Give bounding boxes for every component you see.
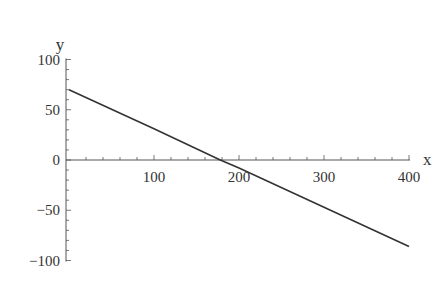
y-axis-label: y — [56, 35, 65, 54]
y-tick-label: 0 — [53, 152, 61, 168]
y-tick-label: 50 — [45, 102, 60, 118]
data-line — [69, 90, 409, 247]
y-tick-label: −50 — [37, 202, 60, 218]
x-tick-label: 100 — [143, 169, 166, 185]
line-chart: 100200300400−100−50050100 x y — [0, 0, 445, 290]
y-tick-label: 100 — [38, 52, 61, 68]
x-axis-label: x — [423, 150, 432, 169]
x-tick-label: 300 — [313, 169, 336, 185]
x-tick-label: 400 — [398, 169, 421, 185]
y-tick-label: −100 — [29, 253, 60, 269]
plot-area — [69, 90, 409, 247]
